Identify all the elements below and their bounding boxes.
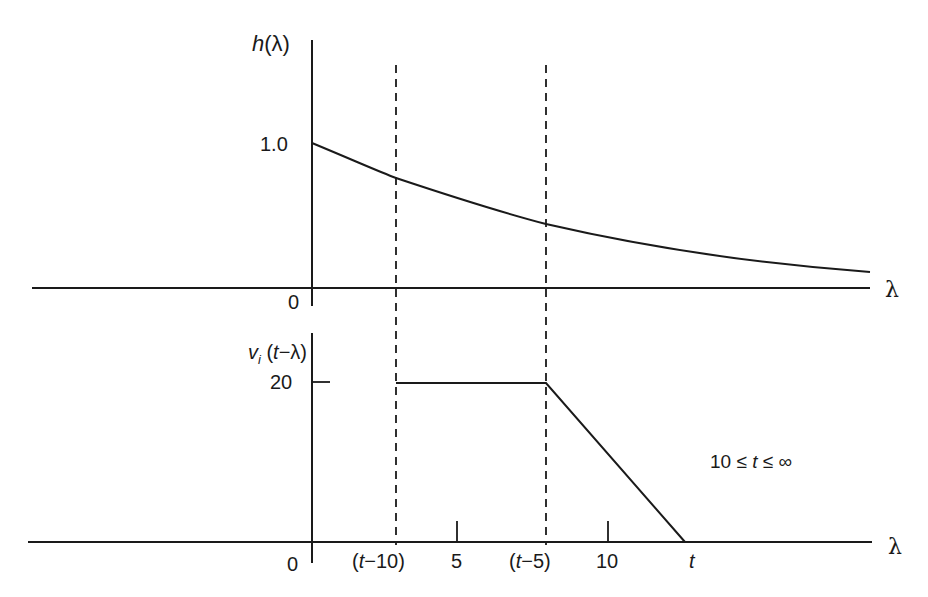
top-y-tick-1-0: 1.0 (260, 134, 288, 154)
minus-ten: −10) (364, 550, 405, 572)
diagram-canvas (0, 0, 928, 597)
condition-lower: 10 ≤ (710, 451, 752, 472)
v-arg-open: ( (261, 341, 273, 363)
h-function-arg: (λ) (264, 31, 290, 56)
condition-upper: ≤ ∞ (757, 451, 792, 472)
paren-open: ( (352, 550, 359, 572)
minus-five: −5) (521, 550, 550, 572)
top-origin-label: 0 (288, 292, 299, 312)
bottom-y-tick-20: 20 (270, 372, 292, 392)
x-label-t: t (689, 551, 695, 571)
x-label-5: 5 (451, 551, 462, 571)
v-arg-rest: −λ) (279, 341, 307, 363)
bottom-origin-label: 0 (287, 554, 298, 574)
v-i-waveform (396, 383, 685, 542)
paren-open: ( (509, 550, 516, 572)
h-function-name: h (252, 31, 264, 56)
bottom-y-axis-label: vi (t−λ) (248, 342, 307, 366)
condition-annotation: 10 ≤ t ≤ ∞ (710, 452, 792, 471)
bottom-x-axis-label: λ (888, 536, 902, 558)
x-label-t-minus-10: (t−10) (352, 551, 405, 571)
x-label-10: 10 (596, 551, 618, 571)
top-x-axis-label: λ (885, 279, 899, 301)
top-y-axis-label: h(λ) (252, 33, 290, 55)
v-variable: v (248, 341, 258, 363)
x-label-t-minus-5: (t−5) (509, 551, 551, 571)
